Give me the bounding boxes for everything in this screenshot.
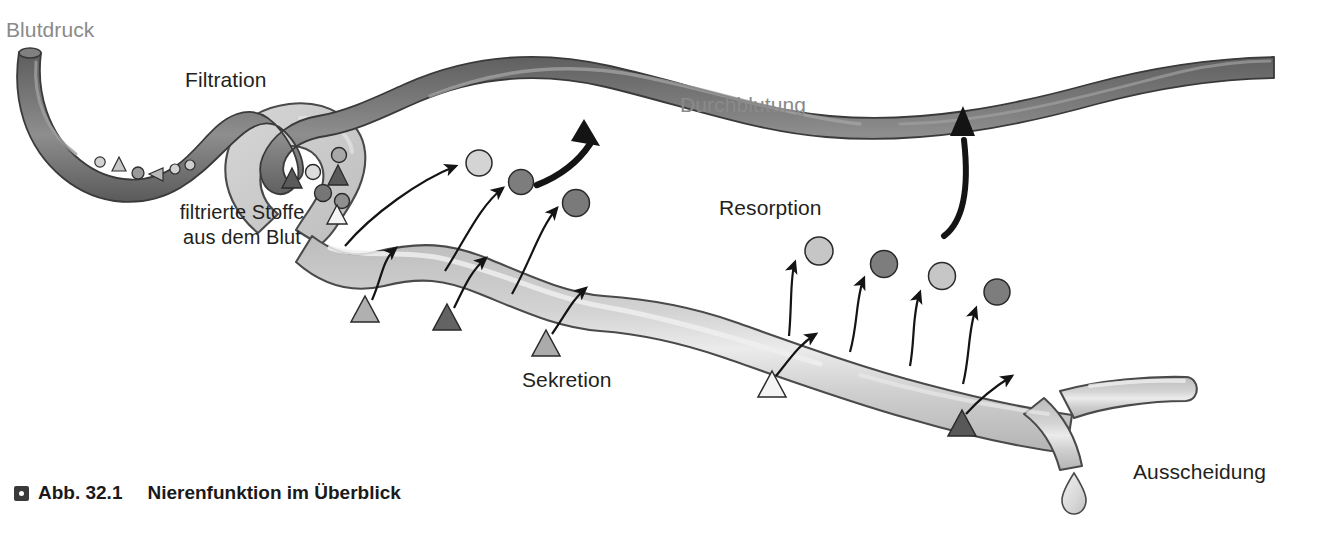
- resorbed-particle-light: [805, 237, 833, 265]
- resorbed-particle-dark: [509, 170, 534, 195]
- resorption-arrow: [850, 278, 864, 352]
- particle-circle-light: [306, 165, 321, 180]
- secretion-triangle-dark: [433, 304, 461, 330]
- resorption-arrow: [910, 292, 920, 366]
- urine-drop: [1062, 473, 1086, 514]
- resorbed-particle-light: [466, 150, 492, 176]
- figure-caption: Abb. 32.1 Nierenfunktion im Überblick: [14, 482, 401, 504]
- secretion-triangle-light: [351, 296, 379, 322]
- label-blutdruck: Blutdruck: [6, 18, 94, 42]
- resorbed-particle-dark: [984, 279, 1010, 305]
- resorbed-particle-dark: [563, 190, 590, 217]
- resorption-to-vessel-arrowhead: [571, 119, 600, 146]
- arteriole-cap: [19, 48, 41, 58]
- particle-triangle-light: [112, 157, 126, 171]
- figure-number: Abb. 32.1: [38, 482, 122, 504]
- resorption-to-vessel-arrow: [537, 144, 590, 185]
- label-sekretion: Sekretion: [522, 368, 612, 392]
- particle-circle-dark: [315, 185, 332, 202]
- label-filtration: Filtration: [185, 68, 267, 92]
- resorption-arrow: [789, 262, 795, 336]
- particle-circle-light: [170, 164, 180, 174]
- particle-circle-light: [95, 157, 105, 167]
- label-filtrierte-stoffe-line1: filtrierte Stoffe: [167, 200, 317, 225]
- urine-drop-group: [1062, 473, 1086, 514]
- label-ausscheidung: Ausscheidung: [1133, 460, 1266, 484]
- particle-circle-light: [185, 160, 195, 170]
- resorption-to-vessel-arrow: [944, 140, 966, 236]
- resorbed-particle-light: [929, 263, 956, 290]
- resorption-arrow: [963, 308, 976, 384]
- label-filtrierte-stoffe-line2: aus dem Blut: [167, 225, 317, 250]
- figure-canvas: Blutdruck Filtration Durchblutung Resorp…: [0, 0, 1344, 533]
- renal-tubule-group: [225, 103, 1197, 470]
- square-bullet-icon: [14, 486, 29, 501]
- secretion-triangle-light: [532, 330, 560, 356]
- figure-title: Nierenfunktion im Überblick: [147, 482, 400, 504]
- resorption-right-group: [789, 106, 1010, 384]
- label-resorption: Resorption: [719, 196, 822, 220]
- particle-circle-gray: [332, 148, 347, 163]
- particle-circle-light: [132, 167, 144, 179]
- label-durchblutung: Durchblutung: [680, 93, 806, 117]
- resorbed-particle-dark: [871, 251, 898, 278]
- label-filtrierte-stoffe: filtrierte Stoffe aus dem Blut: [167, 200, 317, 250]
